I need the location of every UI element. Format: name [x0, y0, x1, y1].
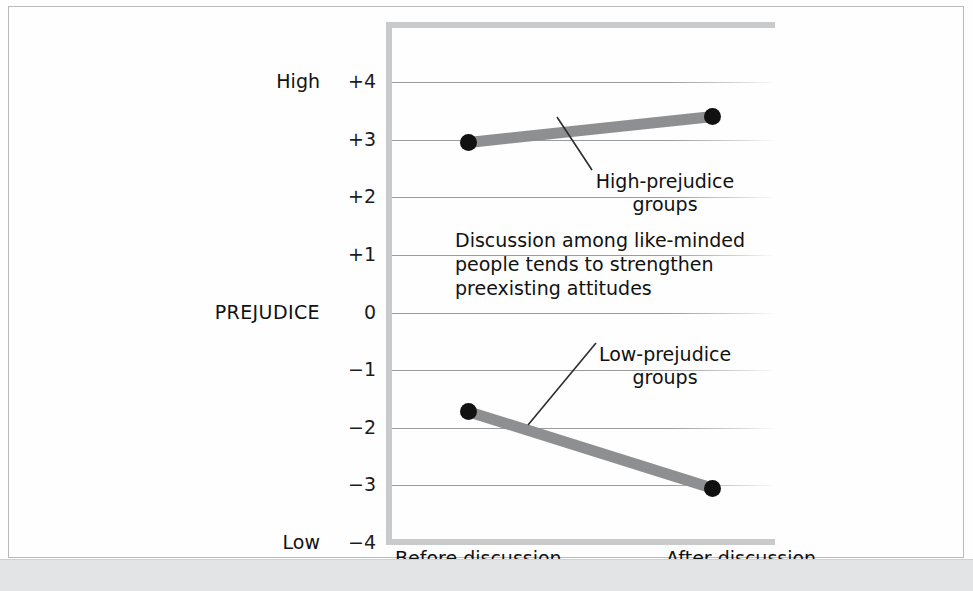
- y-tick-+1: +1: [332, 245, 376, 264]
- y-tick-+2: +2: [332, 187, 376, 206]
- data-point-high-after: [704, 108, 721, 125]
- y-axis-label-high: High: [120, 72, 320, 91]
- gridline-+3: [392, 140, 775, 141]
- y-tick-−4: −4: [332, 533, 376, 552]
- data-point-low-after: [704, 480, 721, 497]
- annotation-note-line3: preexisting attitudes: [455, 276, 785, 300]
- chart-page: +4+3+2+10−1−2−3−4 High PREJUDICE Low Hig…: [0, 0, 973, 591]
- y-axis-title: PREJUDICE: [90, 303, 320, 322]
- gridline-+4: [392, 82, 775, 83]
- y-tick-−1: −1: [332, 360, 376, 379]
- y-axis-side-labels: High PREJUDICE Low: [70, 0, 320, 591]
- axis-frame-left: [386, 22, 392, 545]
- annotation-high-line2: groups: [560, 193, 770, 216]
- axis-frame-bottom: [386, 539, 775, 545]
- y-tick-0: 0: [332, 303, 376, 322]
- annotation-conclusion-note: Discussion among like-minded people tend…: [455, 228, 785, 300]
- y-tick-+3: +3: [332, 130, 376, 149]
- data-point-low-before: [460, 403, 477, 420]
- annotation-low-prejudice: Low-prejudice groups: [565, 343, 765, 389]
- axis-frame-top: [386, 22, 775, 28]
- y-tick-−3: −3: [332, 475, 376, 494]
- y-tick-−2: −2: [332, 418, 376, 437]
- annotation-low-line1: Low-prejudice: [565, 343, 765, 366]
- annotation-high-line1: High-prejudice: [560, 170, 770, 193]
- gridline-−2: [392, 428, 775, 429]
- y-axis-label-low: Low: [120, 533, 320, 552]
- y-tick-+4: +4: [332, 72, 376, 91]
- annotation-note-line2: people tends to strengthen: [455, 252, 785, 276]
- annotation-high-prejudice: High-prejudice groups: [560, 170, 770, 216]
- bottom-gray-band: [0, 560, 973, 591]
- y-axis-tick-labels: +4+3+2+10−1−2−3−4: [320, 0, 376, 591]
- annotation-note-line1: Discussion among like-minded: [455, 228, 785, 252]
- annotation-low-line2: groups: [565, 366, 765, 389]
- gridline-0: [392, 313, 775, 314]
- data-point-high-before: [460, 134, 477, 151]
